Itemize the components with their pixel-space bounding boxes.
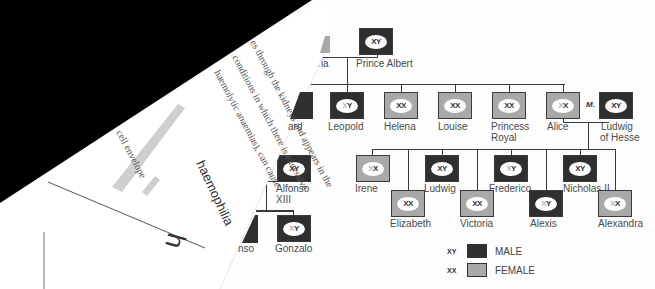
chromosome-icon: XY [500,162,522,176]
chromosome-icon: XY [336,99,358,113]
chromosome-icon: XX [397,197,419,211]
label-gonzalo: Gonzalo [275,243,312,254]
connector [347,57,348,85]
page-letter: h [158,230,192,252]
node-princess-royal: XX [492,92,526,119]
legend-swatch-male [467,244,487,258]
node-elizabeth: XX [391,190,425,217]
entry-heading: haemophilia [193,158,236,228]
node-gonzalo: XY [277,215,311,242]
label-victoria-partial: oria [312,58,329,69]
node-victoria-child: XX [460,190,494,217]
connector [455,84,456,92]
legend-symbol: XY [447,248,467,255]
connector [408,149,409,191]
label-line: Royal [491,132,529,143]
chromosome-icon: XY [535,197,557,211]
label-alexandra: Alexandra [598,218,643,229]
chromosome-icon: XY [569,162,591,176]
connector [615,149,616,191]
connector [563,122,609,123]
chromosome-icon: XX [498,99,520,113]
legend-label: FEMALE [495,265,535,276]
label-ludwig-of-hesse: Ludwig of Hesse [600,121,639,143]
connector [290,84,565,85]
node-nicholas-ii: XY [563,155,597,182]
node-prince-albert: XY [359,28,393,55]
connector [372,149,589,150]
chromosome-icon: XY [283,222,305,236]
node-leopold: XY [330,92,364,119]
connector [256,210,294,212]
connector [509,84,510,92]
chromosome-icon: XX [604,197,626,211]
node-louise: XX [438,92,472,119]
label-alfonso-partial: nso [238,243,254,254]
chromosome-icon: XX [444,99,466,113]
label-helena: Helena [384,121,416,132]
label-elizabeth: Elizabeth [390,218,431,229]
book-page: XY Prince Albert oria XY Leopold XX Hele… [0,0,655,289]
connector [347,84,348,92]
node-alexis: XY [529,190,563,217]
label-frederico: Frederico [489,183,531,194]
label-princess-royal: Princess Royal [491,121,529,143]
chromosome-icon: XX [362,162,384,176]
node-helena: XX [384,92,418,119]
label-irene: Irene [355,183,378,194]
label-louise: Louise [438,121,467,132]
label-line: of Hesse [600,132,639,143]
label-ludwig: Ludwig [424,183,456,194]
chromosome-icon: XX [552,99,574,113]
connector [563,84,564,92]
chromosome-icon: XX [390,99,412,113]
legend-swatch-female [467,263,487,277]
node-frederico: XY [494,155,528,182]
node-ludwig: XY [425,155,459,182]
node-alexandra: XX [598,190,632,217]
node-irene: XX [356,155,390,182]
label-line: XIII [276,194,309,205]
legend-label: MALE [495,246,522,257]
label-prince-albert: Prince Albert [356,58,413,69]
node-alice: XX [546,92,580,119]
label-line: Princess [491,121,529,132]
folded-page-corner [0,0,655,289]
label-victoria-child: Victoria [460,218,493,229]
connector [266,181,267,211]
chromosome-icon: XX [466,197,488,211]
connector [546,149,547,191]
connector [588,122,589,150]
connector [580,149,616,150]
label-leopold: Leopold [328,121,364,132]
legend-male: XY MALE [447,244,522,258]
legend-symbol: XX [447,267,467,274]
chromosome-icon: XY [605,99,627,113]
chromosome-icon: XY [365,35,387,49]
page-text-line: cell envelope [114,128,149,180]
marriage-label: M. [586,100,595,109]
connector [401,84,402,92]
node-ludwig-of-hesse: XY [599,92,633,119]
chromosome-icon: XY [431,162,453,176]
connector [477,149,478,191]
legend-female: XX FEMALE [447,263,535,277]
label-alexis: Alexis [530,218,557,229]
